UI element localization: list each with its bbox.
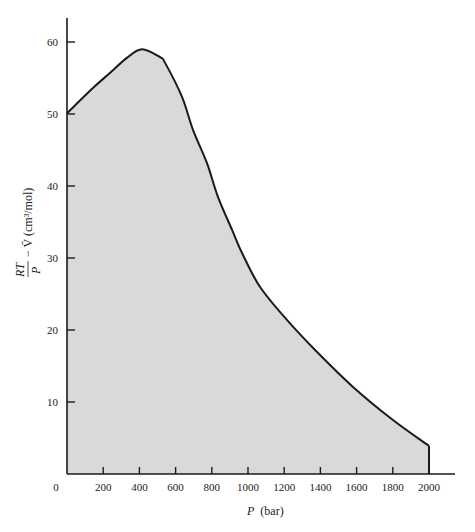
y-label-rest: − V̄ (cm³/mol) bbox=[21, 188, 35, 257]
y-tick-label: 60 bbox=[47, 36, 59, 48]
y-tick-label: 40 bbox=[47, 180, 59, 192]
y-tick-label: 50 bbox=[47, 108, 59, 120]
x-tick-label: 400 bbox=[131, 481, 148, 493]
x-tick-label: 800 bbox=[204, 481, 221, 493]
x-axis-label-var: P bbox=[246, 504, 255, 518]
x-axis-label: P (bar) bbox=[246, 504, 284, 518]
y-label-numerator: RT bbox=[13, 262, 27, 278]
x-tick-label: 1600 bbox=[346, 481, 369, 493]
x-tick-label: 200 bbox=[95, 481, 112, 493]
y-tick-label: 30 bbox=[47, 252, 59, 264]
x-axis-label-unit: (bar) bbox=[260, 504, 283, 518]
x-tick-label: 1400 bbox=[309, 481, 332, 493]
x-tick-label: 2000 bbox=[418, 481, 441, 493]
chart-canvas: 0200400600800100012001400160018002000 10… bbox=[0, 0, 475, 532]
y-tick-label: 20 bbox=[47, 324, 59, 336]
y-tick-label: 10 bbox=[47, 396, 59, 408]
filled-area bbox=[67, 49, 429, 474]
x-tick-label: 1000 bbox=[237, 481, 260, 493]
x-tick-label: 1200 bbox=[273, 481, 296, 493]
y-label-denominator: P bbox=[29, 266, 43, 275]
y-axis-label: RT P − V̄ (cm³/mol) bbox=[4, 152, 44, 302]
x-tick-label: 0 bbox=[53, 481, 59, 493]
area-fill bbox=[67, 49, 429, 474]
x-tick-label: 1800 bbox=[382, 481, 405, 493]
x-tick-label: 600 bbox=[167, 481, 184, 493]
